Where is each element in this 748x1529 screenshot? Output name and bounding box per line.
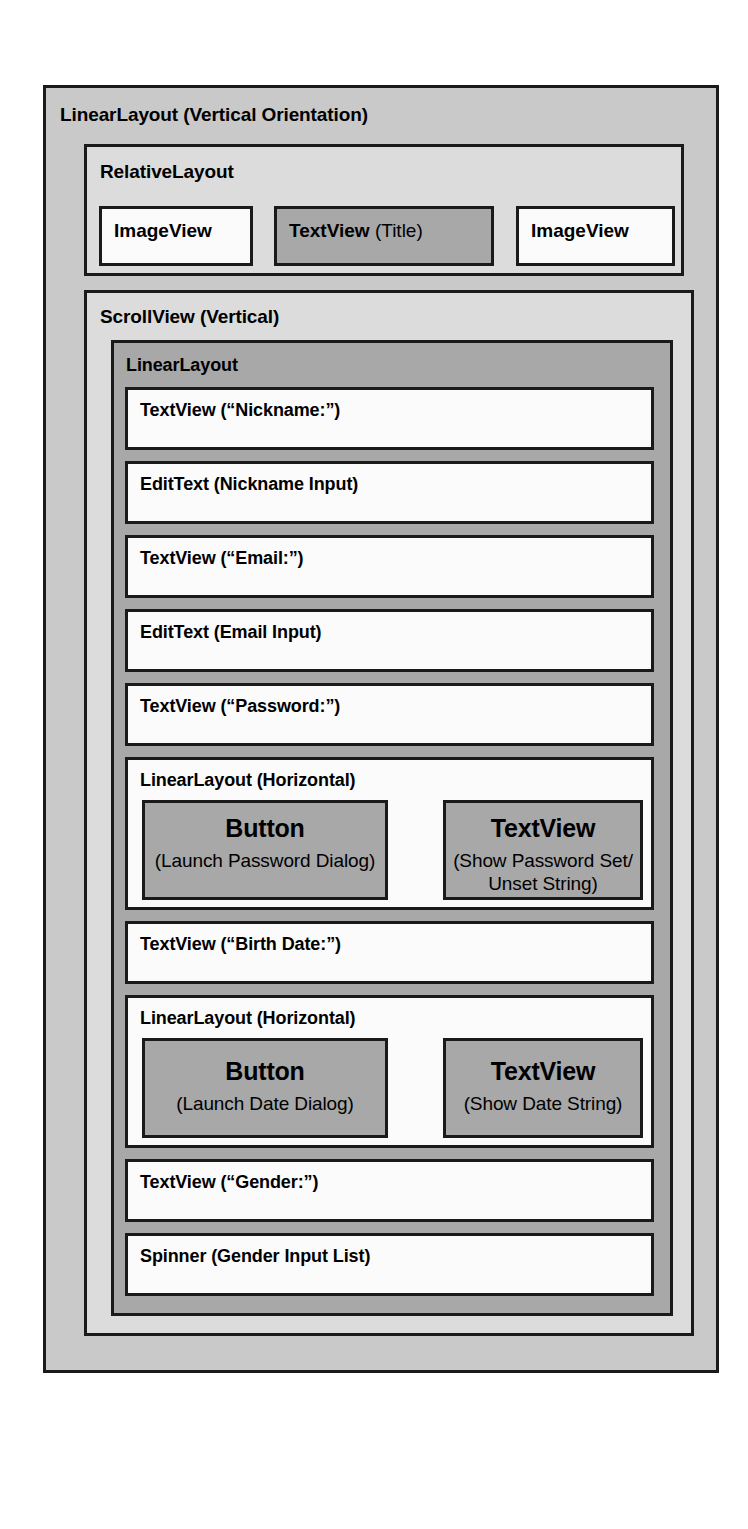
password-launch-button[interactable]: Button (Launch Password Dialog) [142,800,388,900]
header-textview-title[interactable]: TextView (Title) [274,206,494,266]
header-imageview-right-label-strong: ImageView [531,220,629,241]
password-status-textview-title: TextView [446,815,640,842]
row-edittext-email[interactable]: EditText (Email Input) [125,609,654,672]
row-spinner-gender[interactable]: Spinner (Gender Input List) [125,1233,654,1296]
header-imageview-left-label: ImageView [114,221,212,241]
relativelayout-caption: RelativeLayout [100,162,234,181]
header-textview-title-label-light: (Title) [370,220,423,241]
row-linearlayout-horizontal-password: LinearLayout (Horizontal) Button (Launch… [125,757,654,910]
scrollview-inner-linearlayout: LinearLayout TextView (“Nickname:”) Edit… [111,340,673,1316]
row-textview-email[interactable]: TextView (“Email:”) [125,535,654,598]
row-textview-password[interactable]: TextView (“Password:”) [125,683,654,746]
row-textview-password-label: TextView (“Password:”) [140,697,340,716]
date-launch-button-title: Button [145,1058,385,1085]
scrollview-container[interactable]: ScrollView (Vertical) LinearLayout TextV… [84,290,694,1336]
row-edittext-email-label: EditText (Email Input) [140,623,321,642]
password-status-textview-content: TextView (Show Password Set/ Unset Strin… [446,815,640,895]
row-spinner-gender-label: Spinner (Gender Input List) [140,1247,370,1266]
date-launch-button[interactable]: Button (Launch Date Dialog) [142,1038,388,1138]
header-textview-title-label: TextView (Title) [289,221,423,241]
date-status-textview-title: TextView [446,1058,640,1085]
password-status-textview-subtitle: (Show Password Set/ Unset String) [446,849,640,895]
date-launch-button-subtitle: (Launch Date Dialog) [145,1092,385,1115]
header-imageview-right-label: ImageView [531,221,629,241]
row-textview-nickname[interactable]: TextView (“Nickname:”) [125,387,654,450]
header-textview-title-label-strong: TextView [289,220,370,241]
password-launch-button-subtitle: (Launch Password Dialog) [145,849,385,872]
row-textview-email-label: TextView (“Email:”) [140,549,303,568]
scrollview-caption: ScrollView (Vertical) [100,307,279,326]
root-linearlayout-vertical: LinearLayout (Vertical Orientation) Rela… [43,85,719,1373]
row-edittext-nickname[interactable]: EditText (Nickname Input) [125,461,654,524]
date-status-textview-subtitle: (Show Date String) [446,1092,640,1115]
row-edittext-nickname-label: EditText (Nickname Input) [140,475,358,494]
relativelayout-container: RelativeLayout ImageView TextView (Title… [84,144,684,276]
row-linearlayout-horizontal-date: LinearLayout (Horizontal) Button (Launch… [125,995,654,1148]
row-textview-birthdate-label: TextView (“Birth Date:”) [140,935,341,954]
date-status-textview-content: TextView (Show Date String) [446,1058,640,1115]
header-imageview-left-label-strong: ImageView [114,220,212,241]
row-textview-birthdate[interactable]: TextView (“Birth Date:”) [125,921,654,984]
password-launch-button-content: Button (Launch Password Dialog) [145,815,385,872]
date-status-textview: TextView (Show Date String) [443,1038,643,1138]
password-status-textview: TextView (Show Password Set/ Unset Strin… [443,800,643,900]
row-textview-nickname-label: TextView (“Nickname:”) [140,401,340,420]
row-textview-gender-label: TextView (“Gender:”) [140,1173,318,1192]
root-linearlayout-caption: LinearLayout (Vertical Orientation) [60,105,368,124]
header-imageview-left[interactable]: ImageView [99,206,253,266]
row-linearlayout-horizontal-password-label: LinearLayout (Horizontal) [140,771,356,790]
scrollview-inner-linearlayout-caption: LinearLayout [126,356,238,374]
header-imageview-right[interactable]: ImageView [516,206,675,266]
password-launch-button-title: Button [145,815,385,842]
row-linearlayout-horizontal-date-label: LinearLayout (Horizontal) [140,1009,356,1028]
date-launch-button-content: Button (Launch Date Dialog) [145,1058,385,1115]
row-textview-gender[interactable]: TextView (“Gender:”) [125,1159,654,1222]
